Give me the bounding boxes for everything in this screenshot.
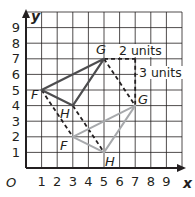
y-tick: 1 [12,145,20,160]
origin-label: O [6,175,16,190]
y-tick: 4 [12,98,20,113]
grid [26,12,182,168]
y-axis-label: y [31,8,41,24]
preimage-vertex-f-label: F [31,87,39,102]
y-tick: 7 [12,51,20,66]
x-tick: 7 [131,174,139,189]
y-tick-labels: 1 2 3 4 5 6 7 8 9 [12,20,20,160]
x-tick: 2 [53,174,61,189]
x-tick: 4 [84,174,92,189]
preimage-vertex-h-label: H [60,106,70,121]
image-vertex-g-label: G [138,92,148,107]
y-tick: 2 [12,129,20,144]
y-tick: 3 [12,114,20,129]
y-tick: 6 [12,67,20,82]
x-tick: 5 [100,174,108,189]
x-tick-labels: 1 2 3 4 5 6 7 8 9 [37,174,170,189]
y-tick: 5 [12,83,20,98]
x-tick: 6 [115,174,123,189]
x-axis-arrow-icon [177,164,186,172]
x-tick: 1 [37,174,45,189]
y-axis-arrow-icon [22,9,30,18]
y-tick: 8 [12,36,20,51]
coordinate-plane: 1 2 3 4 5 6 7 8 9 1 2 3 4 5 6 7 8 9 O x … [0,0,195,197]
x-tick: 8 [147,174,155,189]
preimage-vertex-g-label: G [96,42,106,57]
x-tick: 3 [69,174,77,189]
y-tick: 9 [12,20,20,35]
image-vertex-h-label: H [105,154,115,169]
x-tick: 9 [162,174,170,189]
x-axis-label: x [182,175,193,191]
vertical-shift-label: 3 units [139,65,182,80]
horizontal-shift-label: 2 units [119,43,162,58]
image-vertex-f-label: F [60,138,68,153]
